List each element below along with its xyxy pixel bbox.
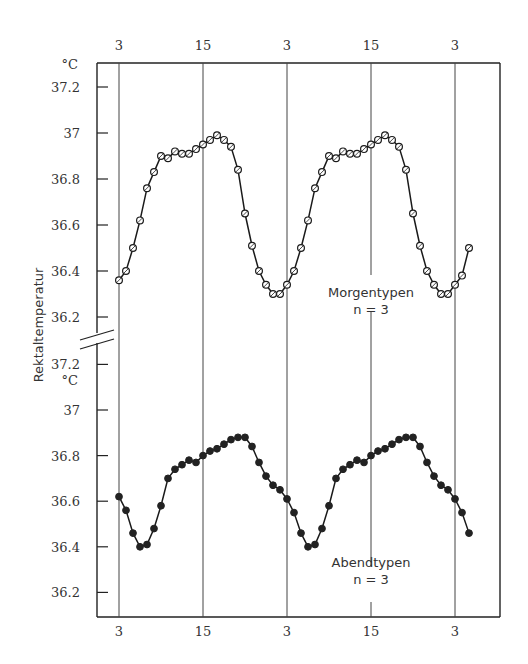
x-tick-labels-bottom: 3153153 [115,624,459,639]
annotation-n-top: n = 3 [353,302,389,317]
y-tick-label: 37 [63,126,80,141]
x-tick-label: 15 [195,624,212,639]
x-tick-label: 3 [283,38,291,53]
x-tick-label: 15 [363,38,380,53]
y-tick-label: 37.2 [51,357,80,372]
annotation-abendtypen: Abendtypen [332,555,411,570]
y-tick-label: 36.8 [51,449,80,464]
y-tick-label: 36.2 [51,585,80,600]
annotation-n-bottom: n = 3 [353,572,389,587]
y-tick-label: 36.4 [51,540,80,555]
series-abendtypen [116,434,473,550]
series-morgentypen [116,132,473,297]
y-ticks-top: 37.23736.836.636.436.2 [51,80,108,325]
x-tick-label: 15 [195,38,212,53]
x-tick-labels-top: 3153153 [115,38,459,53]
annotation-morgentypen: Morgentypen [328,285,414,300]
x-tick-label: 3 [115,38,123,53]
x-tick-label: 3 [115,624,123,639]
y-tick-label: 36.8 [51,172,80,187]
unit-label-top: °C [62,57,79,72]
vertical-gridlines [119,63,455,617]
x-tick-label: 3 [451,624,459,639]
x-tick-label: 15 [363,624,380,639]
x-tick-label: 3 [451,38,459,53]
y-tick-label: 36.6 [51,494,80,509]
temperature-chart: 37.23736.836.636.436.2 37.23736.836.636.… [0,0,528,664]
y-axis-title: Rektaltemperatur [31,267,46,382]
y-tick-label: 37.2 [51,80,80,95]
y-tick-label: 36.2 [51,310,80,325]
y-tick-label: 37 [63,403,80,418]
y-tick-label: 36.4 [51,264,80,279]
y-ticks-bottom: 37.23736.836.636.436.2 [51,357,108,600]
x-tick-label: 3 [283,624,291,639]
y-tick-label: 36.6 [51,218,80,233]
unit-label-bottom: °C [62,373,79,388]
